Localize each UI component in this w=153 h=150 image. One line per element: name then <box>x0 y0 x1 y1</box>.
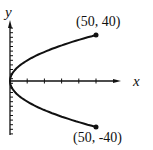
y-axis-arrow-icon <box>8 20 12 28</box>
parabola-chart: y x (50, 40) (50, -40) <box>0 0 153 150</box>
x-axis-label: x <box>132 73 140 89</box>
top-point-label: (50, 40) <box>76 14 121 30</box>
point-top <box>94 33 99 38</box>
bottom-point-label: (50, -40) <box>73 130 122 146</box>
y-axis-label: y <box>3 4 12 20</box>
x-axis-arrow-icon <box>113 79 121 83</box>
point-bottom <box>94 125 99 130</box>
